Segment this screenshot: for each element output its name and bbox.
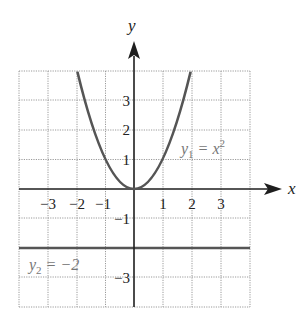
series-y2-label: y2 = −2 (27, 256, 79, 276)
x-tick-label: 3 (217, 196, 225, 212)
y-tick-label: 2 (123, 122, 131, 138)
y-tick-label: −1 (114, 211, 130, 227)
x-axis-label: x (287, 179, 296, 198)
x-tick-label: −2 (69, 196, 85, 212)
x-tick-label: −1 (95, 196, 111, 212)
y-axis-label: y (126, 16, 136, 35)
graph: y x −3 −2 −1 1 2 3 3 2 1 −1 −3 y1 = x2 y… (0, 0, 307, 320)
y-tick-label: −3 (114, 270, 130, 286)
x-tick-label: −3 (40, 196, 56, 212)
x-tick-labels: −3 −2 −1 1 2 3 (40, 196, 225, 212)
x-tick-label: 2 (188, 196, 196, 212)
y-tick-label: 3 (123, 93, 131, 109)
x-tick-label: 1 (159, 196, 167, 212)
series-y1-label: y1 = x2 (179, 137, 225, 160)
y-tick-label: 1 (123, 152, 131, 168)
